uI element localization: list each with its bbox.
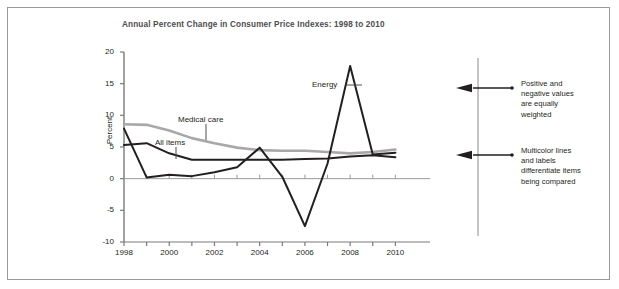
- series-label-all-items: All items: [155, 138, 185, 147]
- callout-line: negative values: [521, 89, 619, 99]
- y-axis-tick-label: 15: [88, 79, 114, 88]
- x-axis-tick-label: 1998: [104, 248, 144, 257]
- series-label-medical-care: Medical care: [178, 115, 223, 124]
- callout-line: are equally: [521, 99, 619, 109]
- callout-line: differentiate items: [521, 166, 619, 176]
- x-axis-tick-label: 2004: [240, 248, 280, 257]
- callout-line: and labels: [521, 156, 619, 166]
- screenshot-root: Annual Percent Change in Consumer Price …: [0, 0, 619, 289]
- callout-multicolor: Multicolor lines and labels differentiat…: [521, 146, 619, 187]
- y-axis-tick-label: -5: [88, 205, 114, 214]
- x-axis-tick-label: 2010: [375, 248, 415, 257]
- y-axis-tick-label: 5: [88, 142, 114, 151]
- callout-line: Positive and: [521, 79, 619, 89]
- callout-line: weighted: [521, 110, 619, 120]
- y-axis-tick-label: -10: [88, 237, 114, 246]
- x-axis-tick-label: 2002: [194, 248, 234, 257]
- callout-line: being compared: [521, 177, 619, 187]
- y-axis-tick-label: 20: [88, 47, 114, 56]
- x-axis-tick-label: 2006: [285, 248, 325, 257]
- y-axis-tick-label: 10: [88, 110, 114, 119]
- callout-line: Multicolor lines: [521, 146, 619, 156]
- series-label-energy: Energy: [312, 80, 337, 89]
- callout-positive-negative: Positive and negative values are equally…: [521, 79, 619, 120]
- y-axis-tick-label: 0: [88, 174, 114, 183]
- x-axis-tick-label: 2000: [149, 248, 189, 257]
- x-axis-tick-label: 2008: [330, 248, 370, 257]
